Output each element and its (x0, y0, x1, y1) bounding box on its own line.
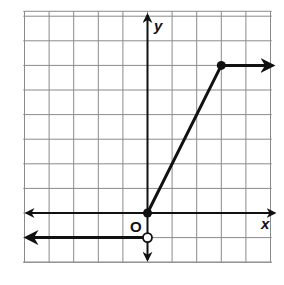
origin-label: O (130, 218, 142, 235)
x-axis-label: x (260, 215, 270, 232)
axes (27, 15, 275, 260)
graph-canvas: y x O (0, 0, 284, 285)
function-plot (27, 61, 273, 242)
y-axis-label: y (153, 17, 163, 34)
